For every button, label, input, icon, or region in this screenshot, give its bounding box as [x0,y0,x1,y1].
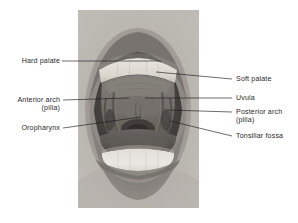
figure-page: Hard palate Anterior arch (pilla) Oropha… [0,0,298,223]
label-anterior-arch-line1: Anterior arch [0,96,60,104]
label-soft-palate-line1: Soft palate [236,75,272,83]
label-hard-palate-line1: Hard palate [0,57,60,65]
label-oropharynx: Oropharynx [0,124,60,132]
photograph-raster [78,10,199,208]
label-soft-palate: Soft palate [236,75,272,83]
label-posterior-arch: Posterior arch (pilla) [236,108,282,125]
label-hard-palate: Hard palate [0,57,60,65]
label-tonsillar-fossa-line1: Tonsillar fossa [236,132,283,140]
label-anterior-arch-line2: (pilla) [0,104,60,112]
label-uvula-line1: Uvula [236,94,255,102]
label-tonsillar-fossa: Tonsillar fossa [236,132,283,140]
label-posterior-arch-line2: (pilla) [236,116,282,124]
label-uvula: Uvula [236,94,255,102]
label-anterior-arch: Anterior arch (pilla) [0,96,60,113]
oral-cavity-photograph [78,10,199,208]
label-oropharynx-line1: Oropharynx [0,124,60,132]
label-posterior-arch-line1: Posterior arch [236,108,282,116]
